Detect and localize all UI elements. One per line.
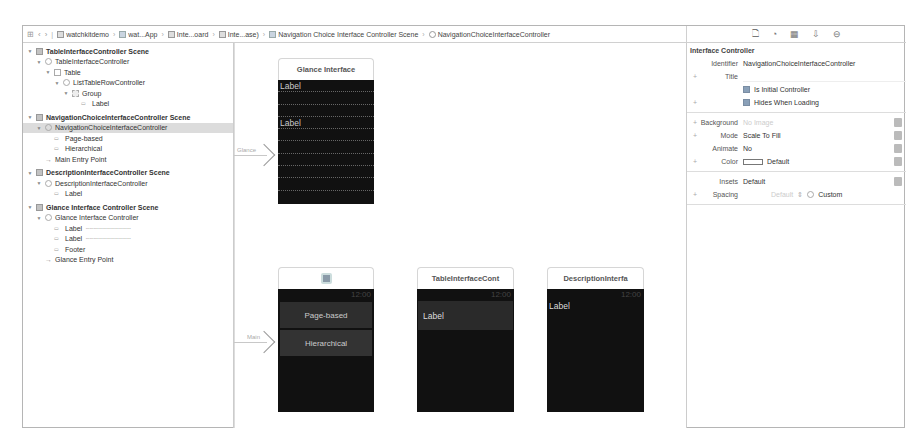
plus-icon[interactable]: +	[693, 158, 697, 165]
disclosure-triangle-icon[interactable]: ▼	[27, 48, 33, 54]
storyboard-canvas[interactable]: Glance Glance Interface Label Label Main	[234, 43, 686, 428]
row-label: Label	[423, 311, 444, 321]
field-label: Animate	[687, 145, 743, 152]
description-label[interactable]: Label	[549, 301, 570, 311]
outline-row[interactable]: ▼Table	[23, 67, 233, 78]
connections-inspector-icon[interactable]: ⊖	[833, 29, 841, 39]
outline-row[interactable]: ▼Group	[23, 88, 233, 99]
select-stepper-icon[interactable]	[894, 144, 902, 153]
related-items-icon[interactable]: ⊞	[27, 30, 34, 39]
outline-item-label: Label	[92, 100, 109, 107]
animate-select[interactable]: No	[743, 145, 752, 152]
custom-spacing-checkbox[interactable]	[807, 191, 814, 198]
plus-icon[interactable]: +	[693, 119, 697, 126]
disclosure-triangle-icon[interactable]: ▼	[45, 69, 51, 75]
plus-icon[interactable]: +	[693, 191, 697, 198]
identity-inspector-icon[interactable]: ▦	[790, 29, 799, 39]
divider	[687, 112, 906, 113]
glance-dotted-row	[278, 105, 374, 117]
outline-scene-row[interactable]: ▼TableInterfaceController Scene	[23, 46, 233, 57]
insets-select[interactable]: Default	[743, 178, 765, 185]
outline-row[interactable]: ▭Page-based	[23, 133, 233, 144]
dropdown-icon[interactable]	[894, 118, 902, 127]
controller-title: Glance Interface	[278, 58, 374, 80]
disclosure-triangle-icon[interactable]: ▼	[27, 204, 33, 210]
title-field[interactable]	[743, 72, 906, 82]
identifier-field[interactable]: NavigationChoiceInterfaceController	[743, 60, 906, 67]
back-icon[interactable]: ‹	[38, 30, 41, 39]
glance-interface-controller[interactable]: Glance Interface Label Label	[278, 58, 374, 204]
glance-label-1[interactable]: Label	[278, 80, 374, 92]
outline-item-label: Glance Interface Controller Scene	[46, 204, 158, 211]
outline-row[interactable]: ▭Hierarchical	[23, 144, 233, 155]
checkbox-label: Is Initial Controller	[754, 86, 810, 93]
page-based-button[interactable]: Page-based	[280, 302, 372, 328]
hides-when-loading-checkbox[interactable]	[743, 99, 750, 106]
outline-scene-row[interactable]: ▼Glance Interface Controller Scene	[23, 202, 233, 213]
outline-row[interactable]: ▭Label··································	[23, 234, 233, 245]
glance-label-2[interactable]: Label	[278, 117, 374, 129]
outline-row[interactable]: ▭Label··································	[23, 223, 233, 234]
spacing-field[interactable]: Default	[771, 191, 793, 198]
disclosure-triangle-icon[interactable]: ▼	[54, 80, 60, 86]
select-stepper-icon[interactable]	[894, 131, 902, 140]
outline-row[interactable]: →Glance Entry Point	[23, 255, 233, 266]
spacing-stepper-icon[interactable]: ⇕	[797, 191, 803, 199]
disclosure-triangle-icon[interactable]: ▼	[36, 215, 42, 221]
breadcrumb-storyboard[interactable]: Inte...oard	[168, 31, 209, 38]
outline-row[interactable]: ▭Footer	[23, 244, 233, 255]
outline-row[interactable]: ▭Label	[23, 99, 233, 110]
color-row: + Color Default	[687, 155, 906, 168]
checkbox-label: Hides When Loading	[754, 99, 819, 106]
background-field[interactable]: No Image	[743, 119, 773, 126]
outline-scene-row[interactable]: ▼NavigationChoiceInterfaceController Sce…	[23, 112, 233, 123]
group-icon	[72, 90, 79, 97]
outline-row[interactable]: ▼ListTableRowController	[23, 78, 233, 89]
table-interface-controller[interactable]: TableInterfaceCont 12:00 Label	[417, 267, 514, 412]
plus-icon[interactable]: +	[693, 99, 697, 106]
file-inspector-icon[interactable]: 🗋	[752, 26, 759, 42]
disclosure-triangle-icon[interactable]: ▼	[27, 114, 33, 120]
breadcrumb-controller[interactable]: NavigationChoiceInterfaceController	[429, 31, 550, 38]
description-interface-controller[interactable]: DescriptionInterfa 12:00 Label	[547, 267, 644, 412]
select-stepper-icon[interactable]	[894, 177, 902, 186]
outline-row[interactable]: ▼NavigationChoiceInterfaceController	[23, 123, 233, 134]
plus-icon[interactable]: +	[693, 132, 697, 139]
breadcrumb-folder[interactable]: wat...App	[119, 31, 157, 38]
attributes-inspector-icon[interactable]: ⇩	[812, 29, 820, 39]
quick-help-icon[interactable]: ◔	[772, 29, 777, 39]
is-initial-checkbox[interactable]	[743, 86, 750, 93]
outline-row[interactable]: →Main Entry Point	[23, 154, 233, 165]
disclosure-triangle-icon[interactable]: ▼	[36, 59, 42, 65]
outline-row[interactable]: ▼TableInterfaceController	[23, 57, 233, 68]
jump-bar: ⊞ ‹ › | watchkitdemo › wat...App › Inte.…	[23, 26, 686, 43]
glance-dotted-row	[278, 166, 374, 178]
disclosure-triangle-icon[interactable]: ▼	[27, 170, 33, 176]
controller-icon	[45, 180, 52, 187]
hierarchical-button[interactable]: Hierarchical	[280, 330, 372, 356]
outline-row[interactable]: ▭Label	[23, 189, 233, 200]
navigation-choice-controller[interactable]: 12:00 Page-based Hierarchical	[278, 267, 374, 412]
breadcrumb-scene[interactable]: Navigation Choice Interface Controller S…	[269, 31, 418, 38]
title-row: + Title	[687, 70, 906, 83]
select-stepper-icon[interactable]	[894, 157, 902, 166]
disclosure-triangle-icon[interactable]: ▼	[36, 125, 42, 131]
plus-icon[interactable]: +	[693, 73, 697, 80]
table-row[interactable]: Label	[418, 301, 513, 330]
mode-select[interactable]: Scale To Fill	[743, 132, 781, 139]
status-time: 12:00	[621, 290, 641, 299]
status-time: 12:00	[491, 290, 511, 299]
outline-scene-row[interactable]: ▼DescriptionInterfaceController Scene	[23, 168, 233, 179]
color-swatch[interactable]	[743, 159, 763, 165]
disclosure-triangle-icon[interactable]: ▼	[63, 90, 69, 96]
glance-entry-arrow-icon[interactable]	[253, 144, 276, 167]
disclosure-triangle-icon[interactable]: ▼	[36, 180, 42, 186]
controller-icon	[63, 79, 70, 86]
outline-row[interactable]: ▼DescriptionInterfaceController	[23, 178, 233, 189]
insets-row: Insets Default	[687, 175, 906, 188]
forward-icon[interactable]: ›	[45, 30, 48, 39]
breadcrumb-project[interactable]: watchkitdemo	[57, 31, 109, 38]
breadcrumb-storyboard-base[interactable]: Inte...ase)	[219, 31, 259, 38]
outline-row[interactable]: ▼Glance Interface Controller	[23, 213, 233, 224]
color-select[interactable]: Default	[767, 158, 789, 165]
